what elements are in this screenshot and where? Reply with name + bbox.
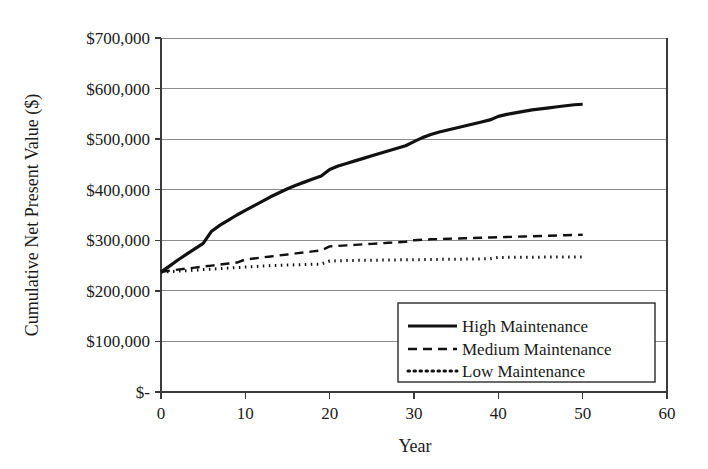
series-group — [161, 104, 583, 272]
legend-label-medium-maintenance: Medium Maintenance — [462, 340, 612, 359]
y-tick-label: $100,000 — [86, 332, 150, 351]
y-tick-labels-group: $700,000$600,000$500,000$400,000$300,000… — [86, 29, 150, 402]
y-tick-label: $300,000 — [86, 231, 150, 250]
y-tick-label: $700,000 — [86, 29, 150, 48]
chart-container: $700,000$600,000$500,000$400,000$300,000… — [0, 0, 708, 469]
legend-label-high-maintenance: High Maintenance — [462, 317, 588, 336]
y-tick-label: $600,000 — [86, 80, 150, 99]
legend-label-low-maintenance: Low Maintenance — [462, 362, 585, 381]
x-tick-label: 60 — [659, 404, 676, 423]
x-tick-label: 40 — [490, 404, 507, 423]
y-tick-label: $- — [136, 383, 151, 402]
y-axis-title: Cumulative Net Present Value ($) — [22, 94, 43, 337]
y-tick-label: $200,000 — [86, 282, 150, 301]
legend: High Maintenance Medium Maintenance Low … — [398, 303, 655, 382]
x-axis-title: Year — [398, 436, 431, 456]
x-tick-label: 0 — [157, 404, 166, 423]
series-line-high-maintenance — [161, 104, 583, 272]
cumulative-npv-line-chart: $700,000$600,000$500,000$400,000$300,000… — [0, 0, 708, 469]
x-tick-label: 30 — [406, 404, 423, 423]
y-tick-label: $500,000 — [86, 130, 150, 149]
x-tick-label: 50 — [574, 404, 591, 423]
x-tick-label: 10 — [237, 404, 254, 423]
x-tick-labels-group: 0102030405060 — [157, 404, 676, 423]
y-tick-label: $400,000 — [86, 181, 150, 200]
gridlines-group — [161, 38, 667, 341]
y-tick-marks-group — [155, 38, 161, 392]
x-tick-label: 20 — [321, 404, 338, 423]
x-tick-marks-group — [161, 392, 667, 399]
